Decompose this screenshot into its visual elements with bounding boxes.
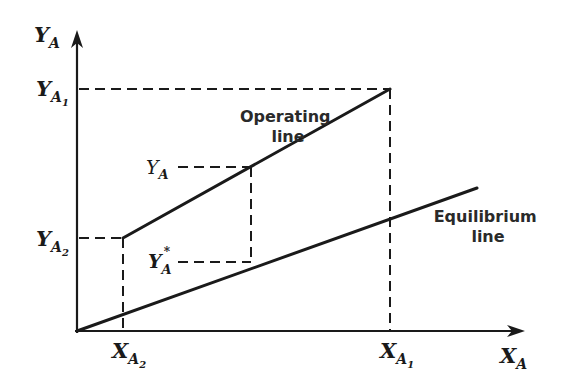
- annotation-ya: YA: [146, 156, 169, 182]
- x-axis-label: XA: [498, 343, 527, 372]
- equilibrium-line: [77, 188, 477, 331]
- tick-label-xa1: XA1: [378, 338, 414, 370]
- tick-label-ya1: YA1: [36, 76, 69, 108]
- equilibrium-line-label: Equilibrium line: [434, 207, 543, 246]
- annotation-ya-star: YA*: [148, 245, 172, 277]
- y-axis-label: YA: [34, 22, 60, 51]
- tick-label-ya2: YA2: [36, 226, 69, 258]
- diagram-canvas: YA XA YA1 YA2 XA2 XA1 YA YA* Operating l…: [0, 0, 561, 387]
- tick-label-xa2: XA2: [110, 338, 146, 370]
